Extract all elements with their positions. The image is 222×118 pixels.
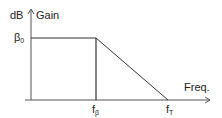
y-unit-label: dB (10, 10, 23, 21)
f-beta-label: fβ (92, 104, 99, 116)
y-axis-title: Gain (36, 10, 59, 21)
gain-plot (0, 0, 222, 118)
f-beta-label-sub: β (95, 109, 99, 116)
x-axis-title: Freq. (184, 82, 210, 93)
f-t-label: fT (166, 104, 173, 116)
rolloff-line (96, 38, 168, 100)
beta0-label: β0 (14, 32, 24, 44)
f-t-label-sub: T (169, 109, 173, 116)
beta0-label-sub: 0 (20, 37, 24, 44)
